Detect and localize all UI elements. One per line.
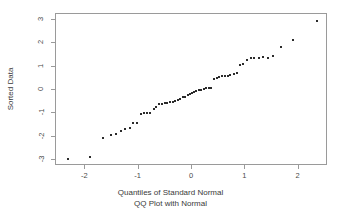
data-point <box>120 130 122 132</box>
data-point <box>146 112 148 114</box>
x-axis-tick-label: 0 <box>189 171 193 180</box>
data-point <box>316 20 318 22</box>
data-point <box>124 128 126 130</box>
y-axis-tick-label: 0 <box>36 87 45 91</box>
data-point <box>233 73 235 75</box>
data-point <box>242 63 244 65</box>
data-point <box>155 106 157 108</box>
x-axis-tick <box>298 165 299 169</box>
data-point <box>280 46 282 48</box>
data-point <box>272 55 274 57</box>
data-point <box>229 74 231 76</box>
data-point <box>267 57 269 59</box>
data-point <box>236 72 238 74</box>
data-point <box>132 122 134 124</box>
scatter-points-layer <box>56 14 326 164</box>
y-axis-tick <box>51 159 55 160</box>
x-axis-tick <box>191 165 192 169</box>
data-point <box>110 134 112 136</box>
x-axis-tick <box>84 165 85 169</box>
data-point <box>89 156 91 158</box>
data-point <box>143 112 145 114</box>
y-axis-tick <box>51 89 55 90</box>
data-point <box>239 64 241 66</box>
data-point <box>250 57 252 59</box>
x-axis-tick-label: -2 <box>81 171 88 180</box>
y-axis-tick-label: 2 <box>36 40 45 44</box>
data-point <box>115 133 117 135</box>
data-point <box>210 87 212 89</box>
x-axis-title: Quantiles of Standard Normal <box>0 188 341 197</box>
x-axis-tick <box>138 165 139 169</box>
x-axis-tick-label: -1 <box>134 171 141 180</box>
data-point <box>246 59 248 61</box>
x-axis-tick-label: 1 <box>242 171 246 180</box>
data-point <box>102 137 104 139</box>
data-point <box>224 75 226 77</box>
y-axis-tick <box>51 66 55 67</box>
data-point <box>253 57 255 59</box>
plot-area-frame <box>55 13 327 165</box>
x-axis-tick <box>244 165 245 169</box>
y-axis-tick <box>51 42 55 43</box>
data-point <box>292 39 294 41</box>
y-axis-tick-label: -1 <box>37 109 46 116</box>
y-axis-tick <box>51 112 55 113</box>
y-axis-title: Sorted Data <box>6 68 15 111</box>
data-point <box>129 127 131 129</box>
plot-subtitle: QQ Plot with Normal <box>0 199 341 208</box>
data-point <box>258 57 260 59</box>
y-axis-tick-label: 3 <box>36 17 45 21</box>
data-point <box>136 122 138 124</box>
data-point <box>262 56 264 58</box>
x-axis-tick-label: 2 <box>296 171 300 180</box>
y-axis-tick <box>51 19 55 20</box>
data-point <box>149 112 151 114</box>
qq-plot-figure: -2-1012-3-2-10123 Sorted Data Quantiles … <box>0 0 341 222</box>
data-point <box>140 113 142 115</box>
y-axis-tick-label: 1 <box>36 64 45 68</box>
y-axis-tick <box>51 136 55 137</box>
y-axis-tick-label: -3 <box>37 156 46 163</box>
data-point <box>153 108 155 110</box>
y-axis-tick-label: -2 <box>37 132 46 139</box>
data-point <box>67 158 69 160</box>
